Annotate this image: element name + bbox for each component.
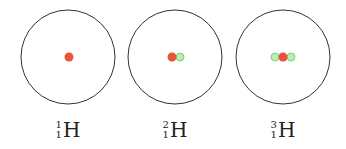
neutron (271, 53, 279, 61)
atom-protium (21, 10, 115, 104)
atom-tritium (236, 10, 330, 104)
element-symbol: H (170, 119, 187, 141)
proton (65, 53, 74, 62)
neutron (287, 53, 295, 61)
element-symbol: H (63, 119, 80, 141)
isotope-label-protium: 11 H (38, 113, 98, 141)
atomic-number: 1 (271, 130, 277, 140)
atomic-number: 1 (163, 130, 169, 140)
isotope-label-deuterium: 21 H (145, 113, 205, 141)
atom-deuterium (128, 10, 222, 104)
isotope-label-tritium: 31 H (253, 113, 313, 141)
neutron (176, 53, 184, 61)
proton (168, 53, 177, 62)
atomic-number: 1 (56, 130, 62, 140)
proton (279, 53, 288, 62)
element-symbol: H (278, 119, 295, 141)
